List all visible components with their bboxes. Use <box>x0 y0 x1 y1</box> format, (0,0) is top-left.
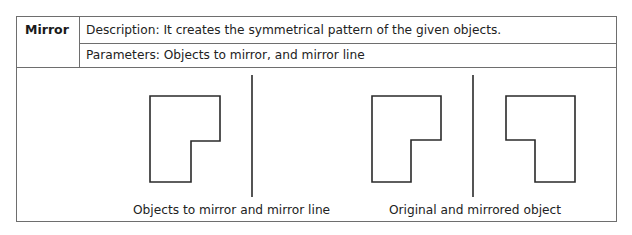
figure-original-and-mirrored <box>372 75 575 197</box>
figure-caption-2: Original and mirrored object <box>389 203 561 217</box>
original-object <box>372 96 441 182</box>
mirrored-object <box>506 96 575 182</box>
original-object <box>150 96 220 182</box>
figure-caption-1: Objects to mirror and mirror line <box>133 203 330 217</box>
illustration <box>0 0 632 235</box>
figure-objects-and-line <box>150 75 252 197</box>
